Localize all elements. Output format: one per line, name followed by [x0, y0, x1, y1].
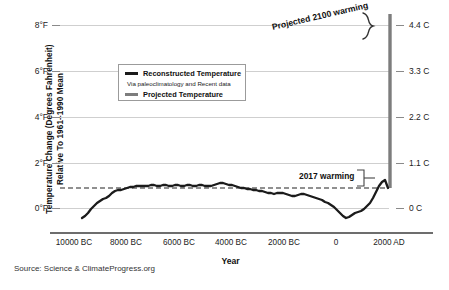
tickmark-right-11c: [396, 163, 404, 164]
bracket-projected-2100-warming: [363, 13, 373, 39]
x-tick-label-8000bc: 8000 BC: [96, 238, 156, 247]
gridline-8f: [60, 25, 389, 26]
y-tick-label-44c: 4.4 C: [409, 20, 449, 30]
y-tick-label-4f: 4°F: [14, 112, 48, 122]
source-attribution: Source: Science & ClimateProgress.org: [14, 264, 155, 273]
tickmark-right-44c: [396, 25, 404, 26]
y-tick-label-2f: 2°F: [14, 158, 48, 168]
x-tick-label-4000bc: 4000 BC: [201, 238, 261, 247]
tickmark-right-33c: [396, 71, 404, 72]
y-tick-label-11c: 1.1 C: [409, 158, 449, 168]
y-tick-label-0f: 0°F: [14, 203, 48, 213]
x-tick-label-10000bc: 10000 BC: [44, 238, 104, 247]
x-axis-line: [50, 232, 433, 234]
x-tick-label-0: 0: [306, 238, 366, 247]
gridline-0f: [60, 208, 389, 209]
tickmark-left-6f: [52, 71, 60, 72]
x-tick-label-6000bc: 6000 BC: [149, 238, 209, 247]
tickmark-left-4f: [52, 117, 60, 118]
series-line-reconstructed-temperature: [82, 180, 388, 218]
tickmark-left-2f: [52, 163, 60, 164]
y-tick-label-0c: 0 C: [409, 203, 449, 213]
tickmark-right-0c: [396, 208, 404, 209]
gridline-4f: [60, 117, 389, 118]
legend-swatch-projected-icon: [125, 93, 138, 96]
legend-label-reconstructed: Reconstructed Temperature: [143, 69, 241, 78]
y-axis-title-line-2: Relative To 1961–1990 Mean: [55, 14, 66, 244]
legend-swatch-reconstructed-icon: [125, 72, 138, 75]
legend-item-caption: Via paleoclimatology and Recent data: [127, 80, 231, 87]
x-axis-title-text: Year: [221, 256, 239, 266]
legend-item-projected: Projected Temperature: [125, 90, 223, 99]
legend-label-projected: Projected Temperature: [143, 90, 223, 99]
legend-label-caption: Via paleoclimatology and Recent data: [127, 80, 231, 87]
annotation-2017-warming: 2017 warming: [299, 171, 354, 181]
tickmark-left-8f: [52, 25, 60, 26]
y-tick-label-8f: 8°F: [14, 20, 48, 30]
y-tick-label-6f: 6°F: [14, 66, 48, 76]
annotation-projected-2100-warming: Projected 2100 warming: [271, 0, 369, 32]
gridline-2f: [60, 163, 389, 164]
tickmark-right-22c: [396, 117, 404, 118]
y-tick-label-22c: 2.2 C: [409, 112, 449, 122]
x-tick-label-2000bc: 2000 BC: [254, 238, 314, 247]
y-tick-label-33c: 3.3 C: [409, 66, 449, 76]
climate-temperature-chart: Temperature Change (Degrees Fahrenheit) …: [0, 0, 449, 290]
legend-item-reconstructed: Reconstructed Temperature: [125, 69, 241, 78]
chart-legend: Reconstructed Temperature Via paleoclima…: [118, 64, 246, 101]
bracket-2017-warming: [357, 170, 364, 186]
tickmark-left-0f: [52, 208, 60, 209]
x-tick-label-2000ad: 2000 AD: [359, 238, 419, 247]
